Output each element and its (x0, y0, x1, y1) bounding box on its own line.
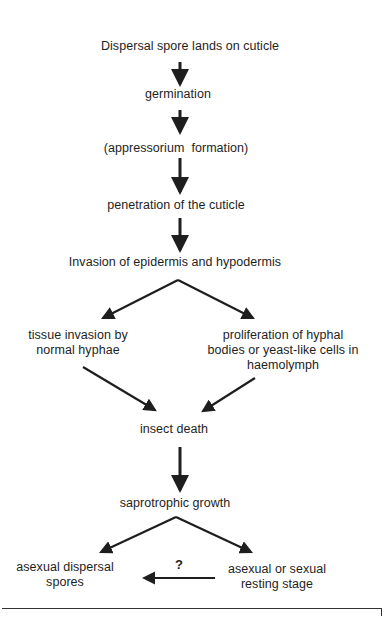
node-proliferation-line-3: haemolymph (208, 358, 359, 373)
bottom-rule-end (381, 608, 382, 616)
node-insect-death: insect death (140, 422, 208, 437)
node-resting-stage-line-2: resting stage (228, 577, 326, 592)
node-resting-stage: asexual or sexual resting stage (228, 562, 326, 592)
node-proliferation-line-1: proliferation of hyphal (208, 328, 359, 343)
node-asexual-dispersal-spores: asexual dispersal spores (16, 560, 113, 590)
node-invasion: Invasion of epidermis and hypodermis (69, 255, 281, 270)
node-saprotrophic-growth: saprotrophic growth (120, 496, 231, 511)
node-asexual-dispersal-line-1: asexual dispersal (16, 560, 113, 575)
arrow-n7-n8 (203, 378, 255, 411)
node-proliferation-line-2: bodies or yeast-like cells in (208, 343, 359, 358)
arrow-n5-n6 (103, 280, 178, 318)
node-proliferation: proliferation of hyphal bodies or yeast-… (208, 328, 359, 373)
bottom-rule (2, 608, 382, 609)
arrow-n9-n10 (101, 517, 176, 552)
node-appressorium-formation: (appressorium formation) (104, 141, 248, 156)
node-dispersal-spore: Dispersal spore lands on cuticle (101, 39, 279, 54)
node-tissue-invasion: tissue invasion by normal hyphae (28, 328, 128, 358)
node-resting-stage-line-1: asexual or sexual (228, 562, 326, 577)
question-mark-label: ? (175, 557, 183, 572)
node-tissue-invasion-line-1: tissue invasion by (28, 328, 128, 343)
node-penetration: penetration of the cuticle (107, 198, 245, 213)
node-asexual-dispersal-line-2: spores (16, 575, 113, 590)
arrow-n9-n11 (176, 517, 251, 552)
arrow-n5-n7 (178, 280, 253, 318)
arrow-n6-n8 (83, 367, 155, 410)
node-tissue-invasion-line-2: normal hyphae (28, 343, 128, 358)
node-germination: germination (145, 87, 211, 102)
